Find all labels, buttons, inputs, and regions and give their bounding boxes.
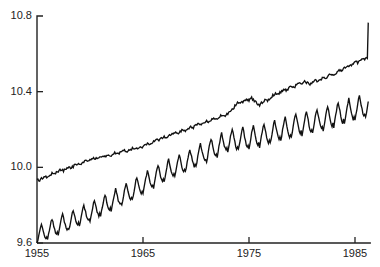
y-tick-label: 10.0: [0, 160, 32, 172]
y-tick-label: 10.8: [0, 9, 32, 21]
y-tick-label: 10.4: [0, 85, 32, 97]
chart-container: 9.610.010.410.8 1955196519751985: [0, 0, 380, 267]
x-tick-label: 1965: [113, 247, 173, 259]
x-tick-label: 1975: [219, 247, 279, 259]
x-tick-label: 1985: [325, 247, 380, 259]
line-lower-series: [37, 95, 368, 243]
x-axis-ticks: [143, 237, 355, 243]
y-axis-spine: [37, 16, 43, 243]
chart-series-group: [37, 23, 368, 243]
chart-plot-area: [0, 0, 380, 267]
x-tick-label: 1955: [7, 247, 67, 259]
chart-axes: [37, 16, 371, 243]
y-axis-ticks: [37, 92, 43, 243]
line-upper-series: [37, 23, 368, 182]
